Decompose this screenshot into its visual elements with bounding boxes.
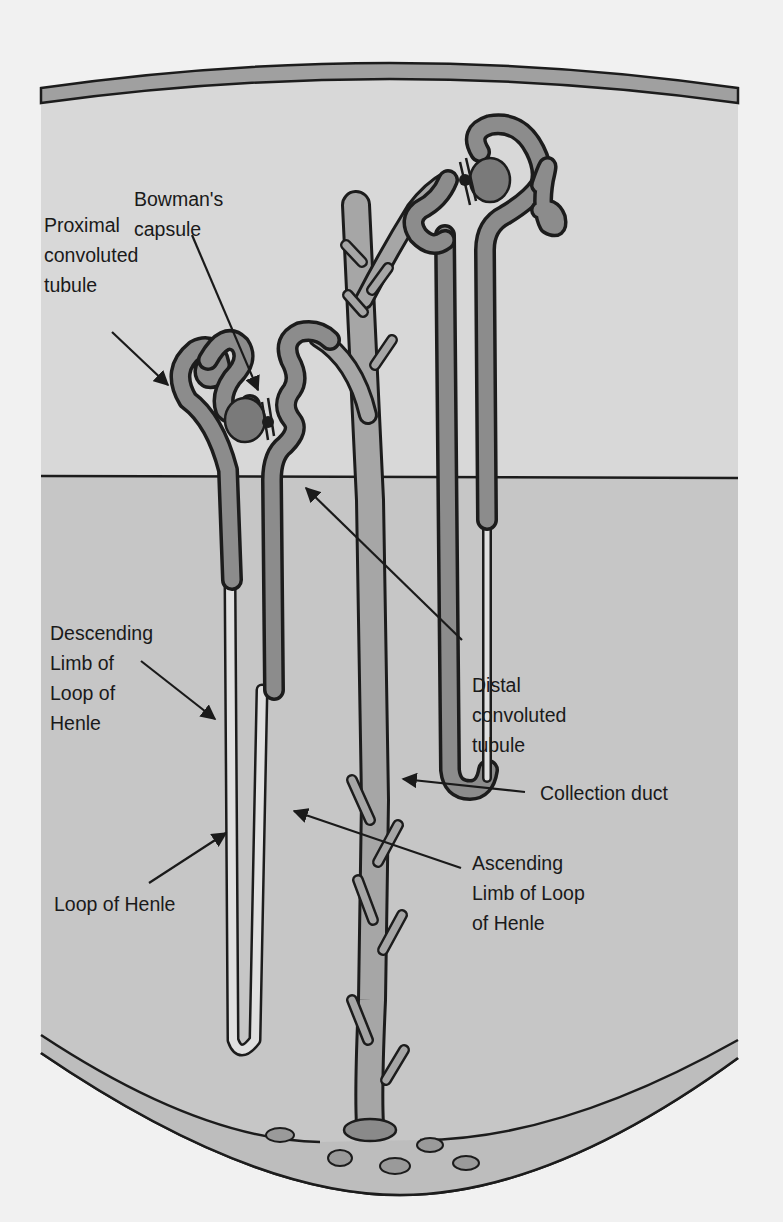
label-proximal-convoluted-tubule: Proximal convoluted tubule [44, 210, 138, 300]
label-ascending-limb: Ascending Limb of Loop of Henle [472, 848, 585, 938]
label-collection-duct: Collection duct [540, 778, 668, 808]
label-loop-of-henle: Loop of Henle [54, 889, 175, 919]
label-descending-limb: Descending Limb of Loop of Henle [50, 618, 153, 738]
label-bowmans-capsule: Bowman's capsule [134, 184, 223, 244]
label-distal-convoluted-tubule: Distal convoluted tubule [472, 670, 566, 760]
nephron-diagram [0, 0, 783, 1222]
